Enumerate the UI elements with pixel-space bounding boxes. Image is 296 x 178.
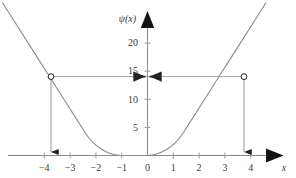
parabola-plot: 5 10 15 20 −4 −3 −2 −1 0 1 2 3 4 ψ(x) x bbox=[0, 0, 296, 178]
y-tick-label-15: 15 bbox=[128, 65, 138, 76]
x-axis-arrowhead bbox=[266, 149, 284, 163]
x-tick-label-1: 1 bbox=[171, 162, 176, 173]
y-axis-arrowhead bbox=[141, 11, 154, 28]
x-tick-label-4: 4 bbox=[248, 162, 253, 173]
x-tick-label-0: 0 bbox=[145, 162, 150, 173]
y-tick-label-20: 20 bbox=[128, 37, 138, 48]
y-axis-label: ψ(x) bbox=[119, 13, 137, 25]
figure-canvas: 5 10 15 20 −4 −3 −2 −1 0 1 2 3 4 ψ(x) x bbox=[0, 0, 296, 178]
x-tick-label-minus2: −2 bbox=[91, 162, 102, 173]
y-tick-label-5: 5 bbox=[133, 122, 138, 133]
x-tick-label-3: 3 bbox=[222, 162, 227, 173]
left-turning-point-marker bbox=[48, 74, 54, 80]
x-axis-label: x bbox=[281, 162, 287, 173]
x-tick-label-minus3: −3 bbox=[65, 162, 76, 173]
y-tick-label-10: 10 bbox=[128, 94, 138, 105]
x-tick-label-2: 2 bbox=[197, 162, 202, 173]
y-axis bbox=[141, 11, 154, 156]
right-turning-point-marker bbox=[241, 74, 247, 80]
x-tick-label-minus1: −1 bbox=[116, 162, 127, 173]
x-tick-label-minus4: −4 bbox=[39, 162, 50, 173]
